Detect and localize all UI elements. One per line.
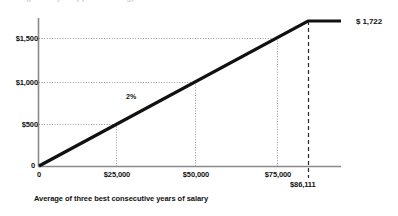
- salary-benefit-chart: (partially cropped heading) $1,500 $1,00…: [0, 0, 398, 216]
- threshold-label-86111: $86,111: [290, 180, 316, 189]
- y-tick-label-500: $500: [2, 120, 38, 129]
- y-tick-label-1000: $1,000: [2, 78, 38, 87]
- x-tick-label-50000: $50,000: [170, 170, 222, 179]
- x-tick-label-75000: $75,000: [252, 170, 304, 179]
- y-tick-label-1500: $1,500: [2, 34, 38, 43]
- benefit-line-series: [39, 21, 341, 166]
- slope-rate-label: 2%: [126, 93, 136, 100]
- cap-value-label: $ 1,722: [356, 17, 382, 26]
- chart-plot-area: [0, 0, 398, 216]
- x-tick-label-0: 0: [30, 170, 48, 179]
- x-tick-label-25000: $25,000: [91, 170, 143, 179]
- chart-caption: Average of three best consecutive years …: [34, 194, 208, 203]
- y-tick-label-0: 0: [2, 161, 35, 170]
